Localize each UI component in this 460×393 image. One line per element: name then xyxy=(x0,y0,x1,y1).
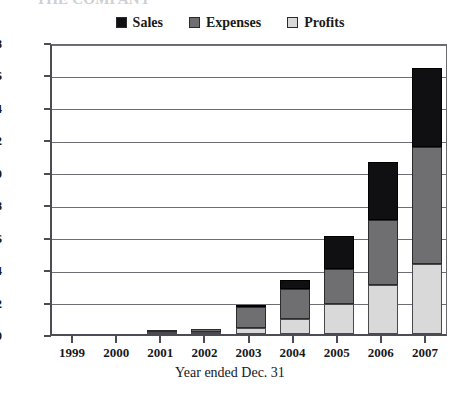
bar-segment-profits[interactable] xyxy=(324,304,354,334)
bar-segment-profits[interactable] xyxy=(368,285,398,334)
y-gridline xyxy=(52,142,446,143)
bar-group[interactable] xyxy=(236,305,266,334)
plot-area xyxy=(50,44,447,336)
bar-segment-sales[interactable] xyxy=(324,236,354,269)
x-tick-mark xyxy=(115,336,117,343)
y-tick-label: $8 xyxy=(0,199,2,212)
bar-segment-profits[interactable] xyxy=(236,328,266,334)
x-tick-mark xyxy=(424,336,426,343)
bar-segment-profits[interactable] xyxy=(412,264,442,334)
bar-segment-profits[interactable] xyxy=(191,332,221,334)
legend-label-expenses: Expenses xyxy=(206,16,261,30)
legend-label-profits: Profits xyxy=(304,16,344,30)
legend-entry-expenses: Expenses xyxy=(189,16,261,30)
y-tick-label: $14 xyxy=(0,102,2,115)
y-gridline xyxy=(52,45,446,46)
x-tick-mark xyxy=(292,336,294,343)
y-tick-label: $16 xyxy=(0,69,2,82)
y-tick-label: $6 xyxy=(0,232,2,245)
y-gridline xyxy=(52,77,446,78)
bar-segment-expenses[interactable] xyxy=(412,147,442,264)
bar-segment-sales[interactable] xyxy=(368,162,398,220)
y-tick-label: $12 xyxy=(0,134,2,147)
bar-segment-expenses[interactable] xyxy=(280,289,310,320)
y-tick-label: $18 xyxy=(0,37,2,50)
bar-group[interactable] xyxy=(324,236,354,334)
y-tick-label: $10 xyxy=(0,167,2,180)
x-tick-mark xyxy=(380,336,382,343)
bar-segment-profits[interactable] xyxy=(147,332,177,334)
y-gridline xyxy=(52,109,446,110)
x-tick-mark xyxy=(248,336,250,343)
bar-group[interactable] xyxy=(412,68,442,334)
legend-swatch-sales-icon xyxy=(116,17,127,28)
bar-segment-expenses[interactable] xyxy=(236,307,266,328)
y-tick-label: $4 xyxy=(0,264,2,277)
x-tick-label: 2007 xyxy=(396,346,454,360)
legend-label-sales: Sales xyxy=(133,16,163,30)
bar-segment-expenses[interactable] xyxy=(324,269,354,304)
x-tick-mark xyxy=(203,336,205,343)
chart-title: THE COMPANY xyxy=(0,0,460,5)
bar-group[interactable] xyxy=(191,329,221,334)
bar-segment-sales[interactable] xyxy=(412,68,442,147)
legend-entry-sales: Sales xyxy=(116,16,163,30)
y-tick-label: $2 xyxy=(0,297,2,310)
bar-segment-profits[interactable] xyxy=(280,319,310,334)
legend-swatch-profits-icon xyxy=(287,17,298,28)
bar-group[interactable] xyxy=(280,280,310,334)
bar-segment-expenses[interactable] xyxy=(368,220,398,285)
bar-group[interactable] xyxy=(368,162,398,334)
bar-group[interactable] xyxy=(147,330,177,334)
x-tick-mark xyxy=(336,336,338,343)
y-tick-label: $0 xyxy=(0,329,2,342)
x-tick-mark xyxy=(159,336,161,343)
x-tick-mark xyxy=(71,336,73,343)
x-axis-title: Year ended Dec. 31 xyxy=(0,365,460,381)
bar-segment-sales[interactable] xyxy=(280,280,310,288)
legend-swatch-expenses-icon xyxy=(189,17,200,28)
legend-entry-profits: Profits xyxy=(287,16,344,30)
chart-legend: Sales Expenses Profits xyxy=(0,13,460,32)
